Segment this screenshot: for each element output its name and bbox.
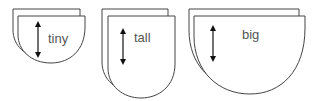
shape-tall-label: tall [134, 30, 151, 45]
shape-big [189, 9, 305, 94]
shape-tiny-label: tiny [48, 31, 68, 46]
shape-tall-front-card [108, 16, 175, 98]
shape-big-label: big [242, 27, 259, 42]
shape-tall [102, 9, 175, 98]
diagram-canvas [0, 0, 314, 101]
